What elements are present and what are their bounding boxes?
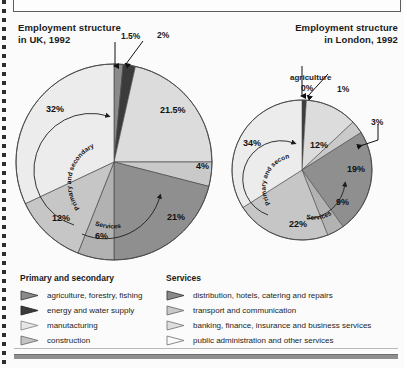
chart-page: Employment structure in UK, 1992 Employm… bbox=[0, 0, 404, 368]
london-agriculture-note: agriculture bbox=[290, 73, 331, 82]
legend-primary-and-secondary: Primary and secondary agriculture, fores… bbox=[20, 274, 165, 348]
legend-label: public administration and other services bbox=[193, 336, 334, 345]
uk-label-21-percent: 21% bbox=[167, 212, 185, 222]
page-frame-box bbox=[13, 0, 401, 12]
legend-label: energy and water supply bbox=[47, 306, 134, 315]
uk-label-21-5-percent: 21.5% bbox=[160, 105, 186, 115]
arrow-swatch-icon bbox=[20, 320, 40, 331]
arrow-swatch-icon bbox=[166, 305, 186, 316]
legend-item-public-administration: public administration and other services bbox=[166, 333, 398, 348]
london-label-34-percent: 34% bbox=[243, 138, 261, 148]
london-label-22-percent: 22% bbox=[289, 219, 307, 229]
uk-label-2-percent: 2% bbox=[157, 30, 169, 40]
legend-item-distribution: distribution, hotels, catering and repai… bbox=[166, 288, 398, 303]
london-chart-title: Employment structure in London, 1992 bbox=[252, 22, 398, 45]
legend-services: Services distribution, hotels, catering … bbox=[166, 274, 398, 348]
legend-item-banking: banking, finance, insurance and business… bbox=[166, 318, 398, 333]
legend-label: transport and communication bbox=[193, 306, 296, 315]
page-bottom-rule bbox=[14, 354, 398, 359]
legend-label: construction bbox=[47, 336, 90, 345]
legend-item-agriculture: agriculture, forestry, fishing bbox=[20, 288, 165, 303]
legend-item-transport: transport and communication bbox=[166, 303, 398, 318]
london-label-19-percent: 19% bbox=[347, 164, 365, 174]
uk-pie-slices bbox=[16, 64, 212, 260]
uk-label-6-percent: 6% bbox=[95, 231, 108, 241]
legend-item-energy: energy and water supply bbox=[20, 303, 165, 318]
legend-label: manutacturing bbox=[47, 321, 98, 330]
legend-divider bbox=[14, 348, 398, 349]
uk-pie-chart: Primary and secondary Services bbox=[10, 48, 222, 266]
legend-item-manufacturing: manutacturing bbox=[20, 318, 165, 333]
uk-label-4-percent: 4% bbox=[196, 161, 209, 171]
london-label-12-percent: 12% bbox=[310, 140, 328, 150]
legend-item-construction: construction bbox=[20, 333, 165, 348]
uk-label-1-5-percent: 1.5% bbox=[121, 31, 140, 41]
london-label-9-percent: 9% bbox=[336, 197, 349, 207]
legend-heading-services: Services bbox=[166, 274, 398, 283]
arrow-swatch-icon bbox=[20, 290, 40, 301]
legend-label: banking, finance, insurance and business… bbox=[193, 321, 371, 330]
uk-chart-title: Employment structure in UK, 1992 bbox=[18, 22, 121, 45]
uk-label-32-percent: 32% bbox=[46, 104, 64, 114]
legend-heading-primary: Primary and secondary bbox=[20, 274, 165, 283]
london-label-3-percent: 3% bbox=[371, 117, 383, 127]
arrow-swatch-icon bbox=[20, 305, 40, 316]
uk-label-12-percent: 12% bbox=[52, 213, 70, 223]
london-label-0-percent: 0% bbox=[301, 83, 313, 93]
page-perforation-edge bbox=[2, 0, 6, 368]
arrow-swatch-icon bbox=[166, 290, 186, 301]
legend-label: distribution, hotels, catering and repai… bbox=[193, 291, 333, 300]
legend-label: agriculture, forestry, fishing bbox=[47, 291, 142, 300]
arrow-swatch-icon bbox=[166, 320, 186, 331]
london-pie-chart: Primary and secondary Services bbox=[232, 96, 384, 256]
arrow-swatch-icon bbox=[166, 335, 186, 346]
london-label-1-percent: 1% bbox=[337, 84, 349, 94]
arrow-swatch-icon bbox=[20, 335, 40, 346]
